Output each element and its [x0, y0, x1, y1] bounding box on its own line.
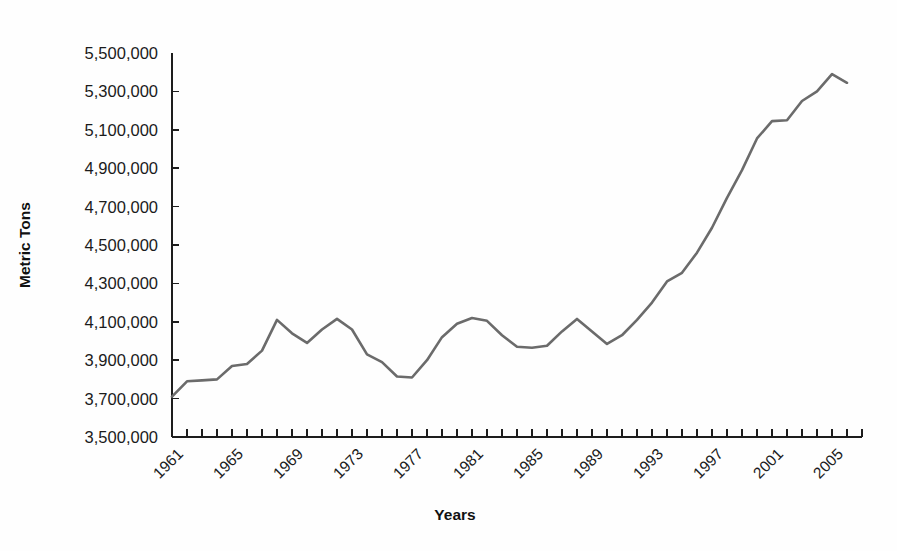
y-tick-label: 4,700,000: [85, 198, 158, 216]
y-tick-label: 4,100,000: [85, 313, 158, 331]
y-tick-label: 4,500,000: [85, 236, 158, 254]
y-tick-label: 3,500,000: [85, 428, 158, 446]
y-tick-label: 5,100,000: [85, 121, 158, 139]
x-tick-label: 1961: [150, 445, 186, 481]
x-tick-label: 1989: [570, 445, 606, 481]
x-axis-tick-labels: 1961196519691973197719811985198919931997…: [150, 445, 846, 481]
x-axis-title: Years: [434, 506, 475, 523]
x-tick-label: 1993: [630, 445, 666, 481]
y-tick-label: 5,500,000: [85, 44, 158, 62]
chart-container: 5,500,0005,300,0005,100,0004,900,0004,70…: [0, 0, 897, 551]
y-axis-tick-labels: 5,500,0005,300,0005,100,0004,900,0004,70…: [85, 44, 158, 446]
x-tick-label: 1985: [510, 445, 546, 481]
x-tick-label: 1981: [450, 445, 486, 481]
x-tick-label: 1973: [330, 445, 366, 481]
y-tick-label: 5,300,000: [85, 82, 158, 100]
y-tick-label: 4,900,000: [85, 159, 158, 177]
x-tick-label: 2005: [810, 445, 846, 481]
y-tick-label: 4,300,000: [85, 274, 158, 292]
x-tick-label: 1977: [390, 445, 426, 481]
x-tick-label: 1969: [270, 445, 306, 481]
plot-background: [172, 53, 862, 437]
line-chart: 5,500,0005,300,0005,100,0004,900,0004,70…: [0, 0, 897, 551]
y-tick-label: 3,900,000: [85, 351, 158, 369]
x-tick-label: 1965: [210, 445, 246, 481]
y-tick-label: 3,700,000: [85, 390, 158, 408]
y-axis-title: Metric Tons: [16, 202, 33, 288]
x-tick-label: 1997: [690, 445, 726, 481]
x-tick-label: 2001: [750, 445, 786, 481]
